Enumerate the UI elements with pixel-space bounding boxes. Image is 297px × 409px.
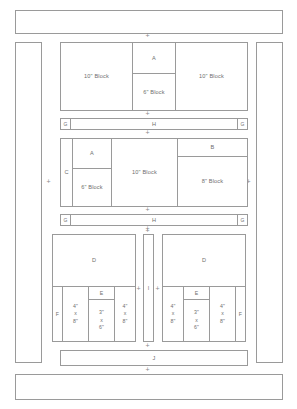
bottom-right-brick-left: 4" x 8": [162, 286, 184, 342]
upper-soldier-right-cap: G: [237, 118, 248, 130]
outer-left-column: [15, 42, 42, 363]
bottom-left-center-top: E: [88, 286, 115, 300]
registration-mark-bottom: +: [144, 366, 151, 373]
bottom-right-center-bottom: 3" x 6": [183, 299, 210, 342]
bottom-right-edge: F: [235, 286, 246, 342]
registration-mark-divider-right: +: [154, 285, 161, 292]
upper-soldier-course-bar: H: [60, 118, 248, 130]
upper-soldier-left-cap: G: [60, 118, 71, 130]
bottom-left-brick-left: 4" x 8": [62, 286, 89, 342]
middle-course-right-top: B: [177, 138, 248, 157]
top-course-center-bottom: 6" Block: [132, 73, 176, 111]
outer-right-column: [256, 42, 283, 363]
middle-course-center-block: 10" Block: [111, 138, 178, 207]
top-course-left-block: 10" Block: [60, 42, 133, 111]
paving-layout-diagram: + + + 10" Block A 6" Block 10" Block + H…: [0, 0, 297, 409]
middle-course-second-bottom: 6" Block: [72, 168, 112, 207]
registration-mark-divider-left: +: [135, 285, 142, 292]
lower-soldier-right-cap: G: [237, 214, 248, 226]
registration-mark-divider-top: +: [144, 227, 151, 234]
bottom-left-brick-right: 4" x 8": [114, 286, 136, 342]
registration-mark-footer-top: +: [144, 342, 151, 349]
middle-course-second-top: A: [72, 138, 112, 169]
footer-course-bar: J: [60, 350, 248, 366]
bottom-left-header: D: [52, 234, 136, 287]
lower-soldier-left-cap: G: [60, 214, 71, 226]
outer-top-bar: [15, 10, 283, 34]
top-course-right-block: 10" Block: [175, 42, 248, 111]
registration-mark-upper-soldier-top: +: [144, 110, 151, 117]
bottom-right-brick-right: 4" x 8": [209, 286, 236, 342]
outer-bottom-bar: [15, 374, 283, 400]
bottom-right-header: D: [162, 234, 246, 287]
registration-mark-lower-soldier-top: +: [144, 206, 151, 213]
registration-mark-top: +: [144, 32, 151, 39]
bottom-right-center-top: E: [183, 286, 210, 300]
lower-soldier-course-bar: H: [60, 214, 248, 226]
bottom-center-divider: I: [143, 234, 154, 342]
bottom-left-center-bottom: 3" x 6": [88, 299, 115, 342]
middle-course-right-bottom: 8" Block: [177, 156, 248, 207]
top-course-center-top: A: [132, 42, 176, 74]
registration-mark-left: +: [45, 178, 52, 185]
registration-mark-upper-soldier-bottom: +: [144, 129, 151, 136]
